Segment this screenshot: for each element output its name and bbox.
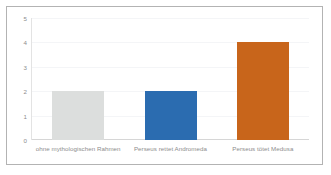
y-axis-tick-label: 1 (23, 112, 27, 119)
bars-layer (32, 18, 309, 140)
x-axis-category-label: Perseus rettet Andromeda (124, 145, 216, 154)
bar (237, 42, 289, 140)
chart-figure: 012345 ohne mythologischen RahmenPerseus… (6, 6, 323, 165)
plot-area: 012345 (32, 18, 309, 140)
x-axis-category-label: ohne mythologischen Rahmen (32, 145, 124, 154)
y-axis-tick-label: 3 (23, 63, 27, 70)
bar (145, 91, 197, 140)
bar (52, 91, 104, 140)
y-axis-tick-label: 5 (23, 15, 27, 22)
y-axis-tick-label: 2 (23, 88, 27, 95)
y-axis-tick-label: 0 (23, 137, 27, 144)
x-axis-category-label: Perseus tötet Medusa (217, 145, 309, 154)
y-axis-tick-label: 4 (23, 39, 27, 46)
